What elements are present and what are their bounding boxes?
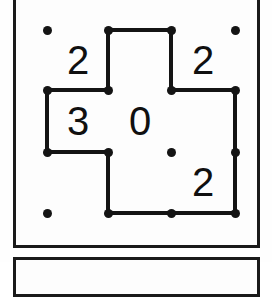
edge-h-r1c2[interactable]	[171, 88, 235, 92]
dot-r2c0[interactable]	[43, 148, 52, 157]
edge-h-r1c0[interactable]	[47, 88, 108, 92]
edge-v-r1c0[interactable]	[45, 90, 49, 152]
edge-v-r1c3[interactable]	[233, 90, 237, 152]
edge-v-r0c1[interactable]	[106, 30, 110, 90]
dot-r1c2[interactable]	[167, 86, 176, 95]
dot-r0c3[interactable]	[231, 26, 240, 35]
clue-r1c1: 0	[129, 101, 151, 141]
dot-r1c0[interactable]	[43, 86, 52, 95]
clue-r0c2: 2	[192, 40, 214, 80]
dot-r3c0[interactable]	[43, 209, 52, 218]
dot-r0c0[interactable]	[43, 26, 52, 35]
edge-h-r3c1[interactable]	[108, 211, 171, 215]
dot-r3c2[interactable]	[167, 209, 176, 218]
dot-r3c1[interactable]	[104, 209, 113, 218]
edge-v-r2c3[interactable]	[233, 152, 237, 213]
dot-r1c3[interactable]	[231, 86, 240, 95]
dot-r0c1[interactable]	[104, 26, 113, 35]
next-puzzle-frame-border	[13, 257, 260, 297]
clue-r2c2: 2	[192, 162, 214, 202]
edge-h-r3c2[interactable]	[171, 211, 235, 215]
dot-r2c3[interactable]	[231, 148, 240, 157]
clue-r1c0: 3	[67, 101, 89, 141]
dot-r3c3[interactable]	[231, 209, 240, 218]
edge-v-r2c1[interactable]	[106, 152, 110, 213]
clue-r0c0: 2	[67, 40, 89, 80]
edge-h-r2c0[interactable]	[47, 150, 108, 154]
dot-r0c2[interactable]	[167, 26, 176, 35]
dot-r2c1[interactable]	[104, 148, 113, 157]
edge-h-r0c1[interactable]	[108, 28, 171, 32]
edge-v-r0c2[interactable]	[169, 30, 173, 90]
dot-r1c1[interactable]	[104, 86, 113, 95]
dot-r2c2[interactable]	[167, 148, 176, 157]
